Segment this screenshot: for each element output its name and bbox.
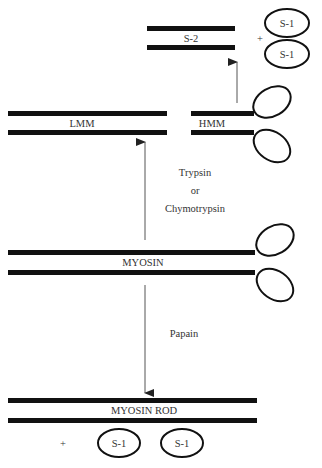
lmm-fragment: LMM bbox=[8, 111, 167, 135]
s1-top-1: S-1 bbox=[265, 9, 309, 37]
s2-fragment: S-2 bbox=[147, 26, 235, 50]
s1-bottom-2: S-1 bbox=[161, 429, 203, 457]
svg-text:Trypsin: Trypsin bbox=[179, 167, 212, 178]
plus-sign-top: + bbox=[257, 33, 263, 44]
myosin-fragmentation-diagram: S-2 + S-1 S-1 LMM HMM Trypsin or Chymotr… bbox=[0, 0, 322, 468]
s2-label: S-2 bbox=[184, 33, 199, 44]
myosin-label: MYOSIN bbox=[122, 257, 164, 268]
hmm-head-lower bbox=[248, 123, 297, 169]
s1-bottom-2-label: S-1 bbox=[175, 438, 190, 449]
hmm-fragment: HMM bbox=[191, 80, 296, 169]
svg-text:Chymotrypsin: Chymotrypsin bbox=[165, 203, 226, 214]
enzyme-label-trypsin-chymotrypsin: Trypsin or Chymotrypsin bbox=[165, 167, 226, 214]
myosin-rod-fragment: MYOSIN ROD bbox=[8, 398, 257, 423]
s1-top-1-label: S-1 bbox=[280, 18, 295, 29]
myosin-rod-label: MYOSIN ROD bbox=[111, 405, 178, 416]
s1-bottom-1: S-1 bbox=[98, 429, 140, 457]
hmm-head-upper bbox=[248, 80, 297, 124]
myosin-head-lower bbox=[251, 262, 300, 308]
s1-top-2: S-1 bbox=[265, 40, 309, 68]
svg-text:or: or bbox=[191, 185, 200, 196]
myosin-head-upper bbox=[251, 218, 300, 262]
lmm-label: LMM bbox=[69, 118, 95, 129]
s1-top-2-label: S-1 bbox=[280, 49, 295, 60]
enzyme-label-papain: Papain bbox=[170, 328, 199, 339]
s1-bottom-1-label: S-1 bbox=[112, 438, 127, 449]
hmm-label: HMM bbox=[199, 118, 226, 129]
myosin-molecule: MYOSIN bbox=[8, 218, 299, 308]
plus-sign-bottom: + bbox=[60, 438, 66, 449]
